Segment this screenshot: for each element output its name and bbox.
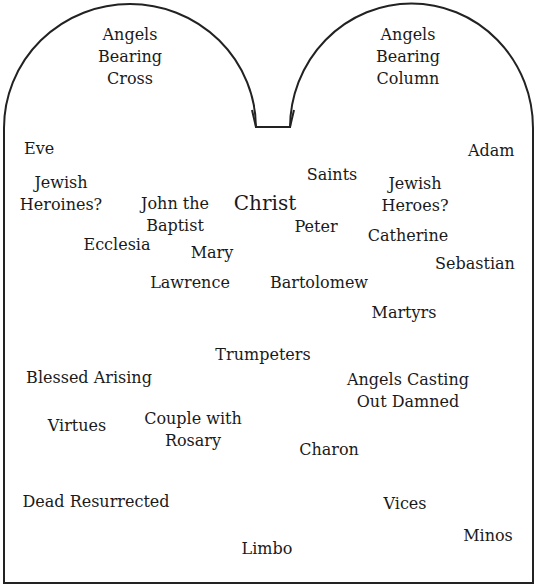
label-jewish-heroes: Jewish Heroes? [382, 173, 449, 217]
label-mary: Mary [191, 242, 234, 264]
label-limbo: Limbo [242, 538, 293, 560]
label-eve: Eve [24, 138, 54, 160]
label-saints: Saints [307, 164, 358, 186]
label-minos: Minos [463, 525, 513, 547]
label-john-the-baptist: John the Baptist [141, 193, 209, 237]
label-angels-casting-out-damned: Angels Casting Out Damned [347, 369, 469, 413]
label-vices: Vices [383, 493, 426, 515]
label-lawrence: Lawrence [150, 272, 230, 294]
label-jewish-heroines: Jewish Heroines? [20, 172, 102, 216]
label-sebastian: Sebastian [435, 253, 515, 275]
label-christ: Christ [234, 191, 296, 215]
arch-label-angels-bearing-column: Angels Bearing Column [376, 24, 440, 90]
label-peter: Peter [294, 216, 337, 238]
label-blessed-arising: Blessed Arising [26, 367, 152, 389]
label-charon: Charon [299, 439, 359, 461]
label-martyrs: Martyrs [372, 302, 437, 324]
arch-label-angels-bearing-cross: Angels Bearing Cross [98, 24, 162, 90]
label-bartolomew: Bartolomew [270, 272, 368, 294]
label-catherine: Catherine [368, 225, 449, 247]
label-adam: Adam [468, 140, 515, 162]
label-virtues: Virtues [48, 415, 106, 437]
label-trumpeters: Trumpeters [215, 344, 310, 366]
label-couple-with-rosary: Couple with Rosary [144, 408, 242, 452]
label-dead-resurrected: Dead Resurrected [22, 491, 169, 513]
label-ecclesia: Ecclesia [83, 234, 150, 256]
